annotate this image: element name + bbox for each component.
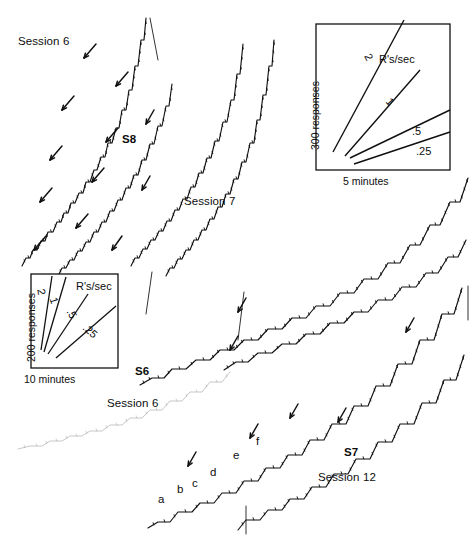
point-marker-e: e xyxy=(233,450,239,462)
legend-top-right-rate-header: R's/sec xyxy=(379,54,415,65)
session-label-top-middle: Session 7 xyxy=(184,196,235,208)
subject-label-s8: S8 xyxy=(122,134,136,146)
point-marker-a: a xyxy=(158,494,164,506)
point-marker-b: b xyxy=(177,484,183,496)
cumulative-records-figure: Session 6 S8 Session 7 S6 Session 6 S7 S… xyxy=(0,0,474,541)
session-label-top-left: Session 6 xyxy=(18,36,69,48)
session-label-middle-left: Session 6 xyxy=(107,398,158,410)
legend-left-x-axis-label: 10 minutes xyxy=(24,374,75,385)
legend-top-right-y-axis-label: 300 responses xyxy=(310,81,321,150)
session-label-bottom-right: Session 12 xyxy=(318,472,376,484)
legend-left-rate-header: R's/sec xyxy=(76,281,112,292)
legend-top-right-rate-label-point5: .5 xyxy=(412,126,421,137)
legend-left-y-axis-label: 200 responses xyxy=(26,293,37,362)
point-marker-c: c xyxy=(192,478,198,490)
legend-top-right-x-axis-label: 5 minutes xyxy=(343,176,389,187)
legend-top-right-rate-label-point25: .25 xyxy=(416,146,431,157)
point-marker-d: d xyxy=(210,467,216,479)
point-marker-f: f xyxy=(256,436,259,448)
subject-label-s7: S7 xyxy=(344,447,358,459)
subject-label-s6: S6 xyxy=(135,366,149,378)
